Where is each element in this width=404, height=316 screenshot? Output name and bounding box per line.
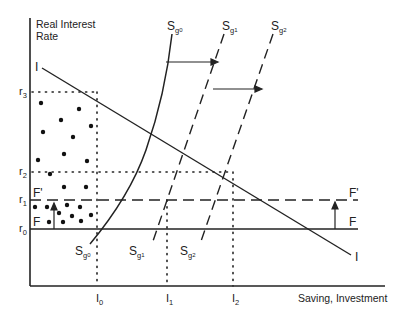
shift-arrows — [51, 59, 338, 229]
rate-label-r3: r3 — [19, 86, 27, 97]
floor-label-F-prime-left: F' — [33, 187, 43, 199]
diagram-canvas — [0, 0, 404, 316]
investment-label-bottom: I — [355, 251, 358, 263]
y-axis-title: Real Interest Rate — [36, 19, 96, 41]
rate-label-r0: r0 — [19, 223, 27, 234]
saving-label-sg0-top: Sg0 — [167, 20, 183, 32]
x-axis-title: Saving, Investment — [298, 293, 387, 304]
saving-label-sg2-bottom: Sg2 — [180, 245, 196, 257]
floor-label-F-prime-right: F' — [349, 187, 359, 199]
quantity-label-I1: I1 — [166, 293, 173, 304]
saving-label-sg2-top: Sg2 — [271, 20, 287, 32]
saving-label-sg1-bottom: Sg1 — [129, 245, 145, 257]
quantity-label-I0: I0 — [96, 293, 103, 304]
floor-label-F-left: F — [33, 216, 40, 228]
rate-label-r1: r1 — [19, 194, 27, 205]
rate-label-r2: r2 — [19, 166, 27, 177]
rationing-dots — [33, 101, 93, 224]
saving-label-sg0-bottom: Sg0 — [75, 245, 91, 257]
quantity-label-I2: I2 — [232, 293, 239, 304]
saving-curve-sg1 — [152, 34, 224, 244]
saving-label-sg1-top: Sg1 — [222, 20, 238, 32]
floor-label-F-right: F — [349, 216, 356, 228]
investment-label-top: I — [35, 61, 38, 73]
